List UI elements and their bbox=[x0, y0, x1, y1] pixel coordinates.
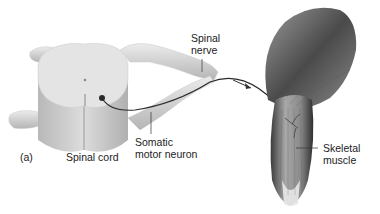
panel-label: (a) bbox=[20, 151, 33, 163]
signal-direction-arrow bbox=[233, 80, 251, 89]
skeletal-muscle-label: Skeletal muscle bbox=[323, 142, 360, 166]
spinal-nerve-label-line1: Spinal bbox=[191, 32, 220, 44]
somatic-motor-neuron-line2: motor neuron bbox=[135, 148, 197, 160]
spinal-nerve-label: Spinal nerve bbox=[191, 32, 220, 56]
spinal-cord-to-muscle-diagram: Spinal nerve Somatic motor neuron (a) Sp… bbox=[0, 0, 380, 214]
skeletal-muscle-illustration bbox=[265, 8, 356, 206]
skeletal-muscle-line1: Skeletal bbox=[323, 142, 360, 154]
skeletal-muscle-line2: muscle bbox=[323, 154, 360, 166]
diagram-artwork bbox=[0, 0, 380, 214]
somatic-motor-neuron-line1: Somatic bbox=[135, 136, 197, 148]
spinal-nerve-label-line2: nerve bbox=[191, 44, 220, 56]
spinal-cord-label: Spinal cord bbox=[66, 151, 119, 163]
somatic-motor-neuron-label: Somatic motor neuron bbox=[135, 136, 197, 160]
